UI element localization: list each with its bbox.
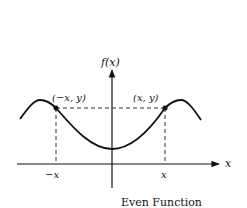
- diagram-caption: Even Function: [121, 196, 202, 208]
- point-pos-x: [163, 106, 168, 111]
- point-pos-x-label: (x, y): [133, 92, 159, 103]
- y-axis-label: f(x): [100, 56, 120, 69]
- even-function-diagram: f(x) x (−x, y) (x, y) −x x Even Function: [0, 0, 247, 208]
- tick-neg-x-label: −x: [45, 169, 59, 180]
- x-axis-label: x: [225, 157, 232, 170]
- point-neg-x-label: (−x, y): [52, 92, 86, 103]
- tick-pos-x-label: x: [161, 169, 167, 180]
- even-function-curve: [20, 100, 201, 149]
- point-neg-x: [54, 106, 59, 111]
